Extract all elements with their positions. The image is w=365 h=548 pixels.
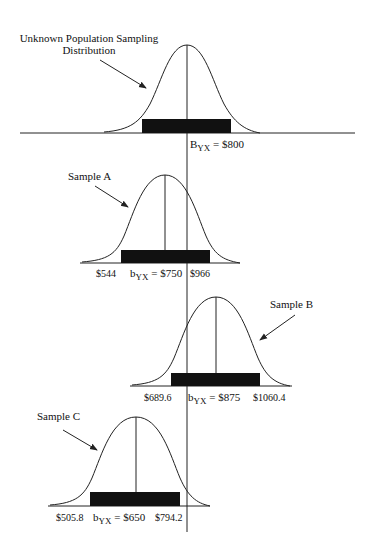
sample-b-coef-label: bYX = $875 xyxy=(188,391,241,406)
sampling-distribution-diagram: Unknown Population Sampling Distribution… xyxy=(0,0,365,548)
sample-b-arrow-icon xyxy=(260,315,295,340)
sample-c-arrow-icon xyxy=(63,430,97,450)
sample-b-curve xyxy=(132,297,290,386)
sample-a-upper-bound: $966 xyxy=(190,268,210,279)
population-arrow-icon xyxy=(100,60,146,88)
sample-c-label: Sample C xyxy=(37,410,80,422)
sample-c-interval-bar xyxy=(90,492,180,506)
sample-a-arrow-icon xyxy=(95,186,128,207)
sample-a-lower-bound: $544 xyxy=(96,268,116,279)
sample-b-distribution: Sample B $689.6 bYX = $875 $1060.4 xyxy=(130,297,313,406)
population-label-line1: Unknown Population Sampling xyxy=(20,32,159,44)
sample-a-interval-bar xyxy=(121,250,210,263)
sample-a-curve xyxy=(82,175,240,263)
sample-b-interval-bar xyxy=(171,373,260,386)
sample-c-upper-bound: $794.2 xyxy=(155,512,183,523)
sample-c-coef-label: bYX = $650 xyxy=(93,511,146,526)
sample-b-lower-bound: $689.6 xyxy=(144,392,172,403)
sample-a-distribution: Sample A $544 bYX = $750 $966 xyxy=(68,170,240,282)
population-interval-bar xyxy=(142,119,231,133)
sample-c-lower-bound: $505.8 xyxy=(56,512,84,523)
population-label-line2: Distribution xyxy=(62,44,116,56)
population-parameter-label: BYX = $800 xyxy=(190,138,245,153)
sample-c-distribution: Sample C $505.8 bYX = $650 $794.2 xyxy=(37,410,210,526)
sample-b-label: Sample B xyxy=(270,298,313,310)
sample-b-upper-bound: $1060.4 xyxy=(253,392,286,403)
sample-a-coef-label: bYX = $750 xyxy=(130,267,183,282)
sample-a-label: Sample A xyxy=(68,170,111,182)
